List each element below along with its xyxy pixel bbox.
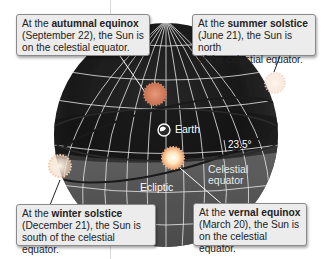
callout-term: vernal equinox: [228, 207, 300, 218]
callout-prefix: At the: [22, 208, 51, 219]
earth-label: Earth: [175, 124, 200, 135]
callout-line: of the celestial equator.: [198, 54, 310, 66]
sun-summer-icon: [265, 73, 285, 93]
earth-icon: [158, 124, 170, 136]
callout-prefix: At the: [198, 18, 227, 29]
callout-line: (March 20), the Sun is: [199, 219, 301, 231]
callout-prefix: At the: [199, 207, 228, 218]
callout-term: summer solstice: [227, 18, 307, 29]
celestial-sphere-diagram: Earth 23.5° Celestial equator Ecliptic A…: [0, 0, 334, 259]
callout-line: on the celestial equator.: [199, 231, 301, 255]
ecliptic-label: Ecliptic: [140, 182, 173, 193]
callout-winter-solstice: At the winter solstice (December 21), th…: [16, 204, 156, 246]
celestial-equator-label-line2: equator: [208, 175, 244, 186]
callout-line: (September 22), the Sun is: [22, 30, 144, 42]
callout-line: on the celestial equator.: [22, 42, 144, 54]
callout-vernal-equinox: At the vernal equinox (March 20), the Su…: [193, 203, 307, 246]
callout-line: (June 21), the Sun is north: [198, 30, 310, 54]
callout-line: south of the celestial equator.: [22, 232, 150, 256]
tilt-angle-label: 23.5°: [228, 139, 251, 150]
sun-winter-icon: [49, 155, 71, 177]
callout-term: autumnal equinox: [51, 18, 138, 29]
callout-summer-solstice: At the summer solstice (June 21), the Su…: [192, 14, 316, 56]
callout-prefix: At the: [22, 18, 51, 29]
callout-line: (December 21), the Sun is: [22, 220, 150, 232]
sun-vernal-icon: [162, 147, 184, 169]
sun-autumnal-icon: [144, 83, 166, 105]
callout-term: winter solstice: [51, 208, 122, 219]
callout-autumnal-equinox: At the autumnal equinox (September 22), …: [16, 14, 150, 56]
